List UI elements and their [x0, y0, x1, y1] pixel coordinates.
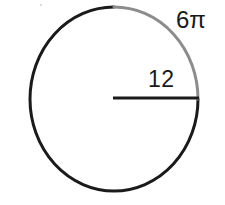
scan-speck [40, 4, 42, 6]
radius-length-label: 12 [148, 68, 175, 91]
circle-geometry-figure: 6π 12 [0, 0, 225, 205]
arc-length-label: 6π [176, 8, 206, 32]
